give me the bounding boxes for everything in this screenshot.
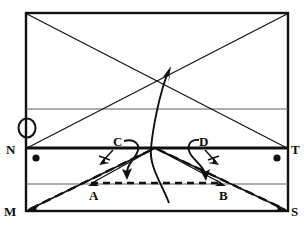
dot-right-on-NT bbox=[273, 154, 280, 161]
label-T: T bbox=[291, 142, 300, 157]
arrow-s-corner-head bbox=[274, 205, 287, 212]
label-A: A bbox=[89, 188, 99, 203]
figure-canvas: N T M S A B C D bbox=[0, 0, 304, 225]
label-D: D bbox=[199, 134, 208, 149]
optics-ray-diagram: N T M S A B C D bbox=[0, 0, 304, 225]
label-M: M bbox=[4, 204, 16, 219]
label-C: C bbox=[113, 134, 122, 149]
dot-left-on-NT bbox=[32, 154, 39, 161]
label-N: N bbox=[6, 142, 16, 157]
label-B: B bbox=[219, 188, 228, 203]
label-S: S bbox=[291, 204, 298, 219]
ray-A-to-centre bbox=[92, 148, 155, 183]
ray-centre-to-B bbox=[155, 148, 221, 183]
